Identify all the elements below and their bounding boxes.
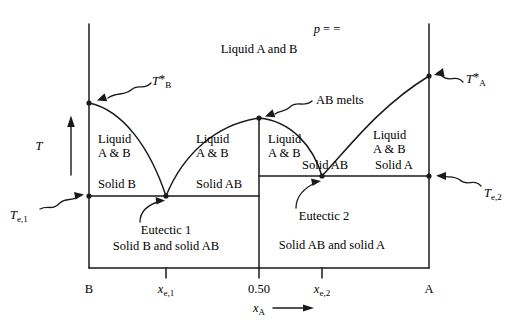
- pressure-condition-note: p = =: [314, 22, 341, 36]
- point-eutectic-2: [319, 173, 324, 178]
- region-liquid-mid-left-line2: A & B: [196, 146, 229, 160]
- xtick-xe1-base: x: [158, 282, 164, 296]
- region-solid-a: Solid A: [375, 158, 413, 172]
- leader-eutectic-2-head: [311, 179, 321, 187]
- point-t-star-a: [426, 73, 431, 78]
- t-axis-arrow-head: [67, 116, 75, 128]
- annotation-eutectic-2: Eutectic 2: [299, 209, 349, 223]
- axis-label-temperature: T: [36, 139, 43, 153]
- xtick-xe2-base: x: [314, 282, 320, 296]
- leader-t-e-2: [441, 176, 481, 186]
- point-eutectic-1: [163, 193, 168, 198]
- leader-ab-melts: [275, 101, 312, 114]
- leader-ab-melts-head: [265, 109, 275, 117]
- point-ab-melting-max: [256, 115, 261, 120]
- region-liquid-mid-left-line1: Liquid: [196, 132, 229, 146]
- xtick-label-a: A: [424, 282, 433, 296]
- annotation-t-e-1: Te,1: [10, 208, 28, 222]
- region-liquid-left: Liquid A & B: [98, 132, 131, 161]
- leader-t-e-1-head: [74, 192, 84, 200]
- xtick-label-xe2: xe,2: [314, 282, 330, 296]
- axis-label-composition: xA: [253, 301, 265, 315]
- x-axis-arrow-head: [303, 304, 314, 311]
- region-eutectic-1-field: Solid B and solid AB: [113, 239, 219, 253]
- point-t-e-1: [86, 193, 91, 198]
- leader-t-star-a-head: [434, 68, 445, 77]
- region-liquid-right-line1: Liquid: [373, 128, 406, 142]
- leader-t-star-b-head: [97, 93, 107, 101]
- region-liquid-mid-right: Liquid A & B: [268, 132, 301, 161]
- leader-eutectic-1-head: [156, 197, 166, 205]
- region-solid-ab-right: Solid AB: [302, 158, 348, 172]
- xtick-label-b: B: [85, 282, 93, 296]
- region-liquid-right: Liquid A & B: [373, 128, 406, 157]
- region-liquid-right-line2: A & B: [373, 142, 406, 156]
- annotation-t-e-2: Te,2: [484, 186, 502, 200]
- leader-eutectic-2: [296, 182, 317, 208]
- region-solid-ab-left: Solid AB: [196, 177, 242, 191]
- region-eutectic-2-field: Solid AB and solid A: [279, 238, 385, 252]
- xtick-label-xe1: xe,1: [158, 282, 174, 296]
- region-solid-b: Solid B: [98, 177, 136, 191]
- xtick-xe1-sub: e,1: [163, 288, 174, 298]
- leader-t-e-2-head: [436, 172, 446, 180]
- region-liquid-mid-right-line2: A & B: [268, 146, 301, 160]
- region-liquid-mid-right-line1: Liquid: [268, 132, 301, 146]
- region-liquid-left-line1: Liquid: [98, 132, 131, 146]
- region-liquid-a-and-b: Liquid A and B: [221, 42, 298, 56]
- phase-diagram-figure: p = = Liquid A and B T*B T*A AB melts T …: [0, 0, 530, 333]
- axis-label-x-base: x: [253, 301, 259, 315]
- point-t-star-b: [86, 100, 91, 105]
- leader-eutectic-1: [140, 201, 161, 222]
- leader-t-e-1: [40, 196, 79, 209]
- xtick-label-050: 0.50: [248, 282, 270, 296]
- region-liquid-mid-left: Liquid A & B: [196, 132, 229, 161]
- xtick-xe2-sub: e,2: [319, 288, 330, 298]
- annotation-t-star-b: T*B: [152, 74, 171, 88]
- point-t-e-2: [426, 173, 431, 178]
- axis-label-x-sub: A: [259, 307, 266, 317]
- annotation-t-star-a: T*A: [466, 72, 486, 86]
- annotation-ab-melts: AB melts: [316, 93, 364, 107]
- region-liquid-left-line2: A & B: [98, 146, 131, 160]
- annotation-eutectic-1: Eutectic 1: [141, 223, 191, 237]
- leader-t-star-b: [108, 83, 151, 98]
